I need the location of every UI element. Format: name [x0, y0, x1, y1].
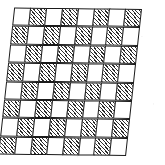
board-row [8, 44, 146, 64]
board-row [2, 99, 140, 119]
board-cell-dark [115, 82, 134, 101]
board-cell-light [117, 64, 136, 83]
board-cell-light [121, 27, 140, 46]
board-row [10, 26, 148, 46]
board-row [0, 136, 136, 156]
board-row [4, 81, 142, 101]
board-row [12, 8, 150, 28]
checkerboard-figure [0, 0, 165, 165]
board-cell-dark [123, 9, 142, 28]
board-cell-dark [111, 119, 130, 138]
board-row [6, 63, 144, 83]
board-cell-light [109, 137, 128, 156]
board-cell-light [113, 101, 132, 120]
checkerboard-grid [0, 8, 150, 156]
board-cell-dark [119, 45, 138, 64]
board-row [0, 118, 138, 138]
